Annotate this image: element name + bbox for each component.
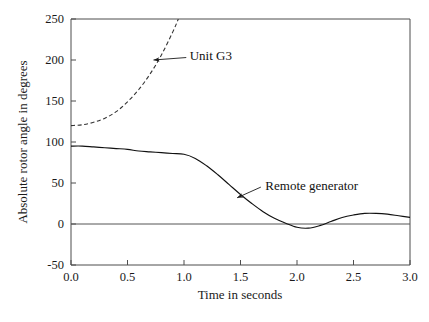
- annotation-label-remote-generator: Remote generator: [265, 178, 358, 193]
- x-tick-label: 3.0: [402, 270, 418, 284]
- chart-figure: -50050100150200250 0.00.51.01.52.02.53.0…: [0, 0, 429, 322]
- y-tick-label: 150: [45, 94, 64, 108]
- x-tick-label: 1.0: [176, 270, 192, 284]
- y-tick-label: 200: [45, 53, 64, 67]
- x-tick-label: 1.5: [233, 270, 249, 284]
- y-tick-label: 0: [58, 217, 64, 231]
- x-tick-label: 2.0: [289, 270, 305, 284]
- y-tick-label: 50: [52, 176, 65, 190]
- y-tick-label: -50: [47, 258, 64, 272]
- rotor-angle-line-chart: -50050100150200250 0.00.51.01.52.02.53.0…: [0, 0, 429, 322]
- annotation-label-unit-g3: Unit G3: [190, 48, 232, 63]
- x-tick-label: 0.0: [63, 270, 79, 284]
- x-tick-label: 2.5: [346, 270, 362, 284]
- x-axis-title: Time in seconds: [198, 287, 283, 302]
- y-tick-label: 100: [45, 135, 64, 149]
- y-axis-title: Absolute rotor angle in degrees: [15, 60, 30, 223]
- y-tick-label: 250: [45, 12, 64, 26]
- x-tick-label: 0.5: [120, 270, 136, 284]
